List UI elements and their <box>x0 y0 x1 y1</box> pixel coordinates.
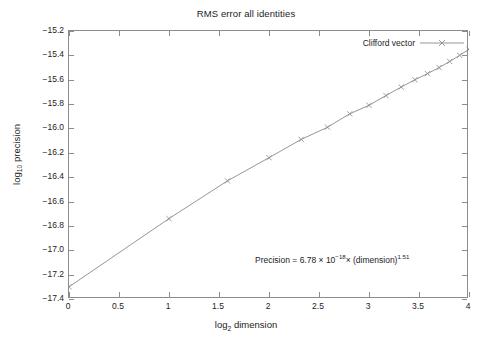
x-tick-label: 1.5 <box>212 302 224 311</box>
y-tick-label: −17.2 <box>42 269 64 278</box>
x-axis-tick <box>419 292 420 297</box>
annotation-prefix: Precision = 6.78 × 10 <box>255 255 335 265</box>
y-tick-label: −16.6 <box>42 196 64 205</box>
x-tick-label: 2 <box>266 302 271 311</box>
x-axis-tick-top <box>419 31 420 36</box>
legend-entry-label: Clifford vector <box>363 38 417 48</box>
y-axis-tick <box>69 275 74 276</box>
y-axis-tick <box>69 80 74 81</box>
x-axis-tick <box>169 292 170 297</box>
x-axis-tick-top <box>319 31 320 36</box>
x-axis-tick-top <box>69 31 70 36</box>
x-axis-tick-top <box>469 31 470 36</box>
y-axis-tick-right <box>462 31 467 32</box>
x-axis-tick-top <box>219 31 220 36</box>
chart-title: RMS error all identities <box>0 8 492 19</box>
x-tick-label: 2.5 <box>312 302 324 311</box>
x-tick-label: 3.5 <box>412 302 424 311</box>
y-axis-tick-right <box>462 299 467 300</box>
y-tick-label: −17.4 <box>42 294 64 303</box>
y-tick-label: −17.0 <box>42 245 64 254</box>
x-axis-tick <box>319 292 320 297</box>
y-axis-label-rest: precision <box>11 124 22 165</box>
y-axis-tick-right <box>462 250 467 251</box>
x-axis-tick <box>69 292 70 297</box>
y-tick-label: −16.4 <box>42 172 64 181</box>
y-tick-label: −15.2 <box>42 26 64 35</box>
x-axis-tick <box>269 292 270 297</box>
annotation-exponent-1: −18 <box>335 253 345 260</box>
x-axis-tick-top <box>119 31 120 36</box>
y-axis-tick <box>69 177 74 178</box>
x-axis-tick-top <box>169 31 170 36</box>
x-tick-label: 4 <box>466 302 471 311</box>
x-tick-label: 0 <box>66 302 71 311</box>
y-tick-label: −15.6 <box>42 74 64 83</box>
x-axis-label-base: log <box>215 319 228 330</box>
y-tick-label: −15.8 <box>42 99 64 108</box>
y-tick-label: −16.2 <box>42 148 64 157</box>
y-tick-label: −16.8 <box>42 221 64 230</box>
y-axis-tick <box>69 250 74 251</box>
y-tick-label: −16.0 <box>42 123 64 132</box>
y-axis-tick-right <box>462 80 467 81</box>
x-axis-tick <box>469 292 470 297</box>
chart-annotation: Precision = 6.78 × 10−18× (dimension)1.5… <box>255 253 409 265</box>
y-axis-label-subscript: 10 <box>16 165 23 173</box>
y-axis-tick-labels: −15.2−15.4−15.6−15.8−16.0−16.2−16.4−16.6… <box>18 0 64 343</box>
x-axis-tick <box>119 292 120 297</box>
y-axis-tick <box>69 226 74 227</box>
y-axis-tick-right <box>462 226 467 227</box>
x-axis-label: log2 dimension <box>0 319 492 332</box>
series-line-clifford-vector <box>69 49 469 287</box>
x-axis-label-rest: dimension <box>231 319 277 330</box>
y-axis-tick-right <box>462 177 467 178</box>
y-axis-tick-right <box>462 275 467 276</box>
y-axis-label-base: log <box>11 172 22 185</box>
x-axis-tick-top <box>269 31 270 36</box>
x-tick-label: 1 <box>166 302 171 311</box>
y-axis-tick-right <box>462 55 467 56</box>
y-axis-label: log10 precision <box>11 94 24 214</box>
x-axis-tick-top <box>369 31 370 36</box>
x-axis-tick <box>369 292 370 297</box>
plot-area: Clifford vector Precision = 6.78 × 10−18… <box>68 30 468 298</box>
chart-figure: RMS error all identities −15.2−15.4−15.6… <box>0 0 492 343</box>
x-tick-label: 3 <box>366 302 371 311</box>
y-tick-label: −15.4 <box>42 50 64 59</box>
legend-sample-icon <box>420 38 464 48</box>
x-axis-tick <box>219 292 220 297</box>
annotation-middle: × (dimension) <box>346 255 398 265</box>
y-axis-tick-right <box>462 153 467 154</box>
y-axis-tick <box>69 55 74 56</box>
y-axis-tick <box>69 299 74 300</box>
y-axis-tick <box>69 153 74 154</box>
legend: Clifford vector <box>363 38 464 48</box>
x-tick-label: 0.5 <box>112 302 124 311</box>
y-axis-tick-right <box>462 202 467 203</box>
y-axis-tick <box>69 202 74 203</box>
y-axis-tick <box>69 128 74 129</box>
y-axis-tick-right <box>462 104 467 105</box>
annotation-exponent-2: 1.51 <box>397 253 409 260</box>
x-axis-tick-labels: 00.511.522.533.54 <box>0 302 492 318</box>
y-axis-tick <box>69 104 74 105</box>
y-axis-tick-right <box>462 128 467 129</box>
